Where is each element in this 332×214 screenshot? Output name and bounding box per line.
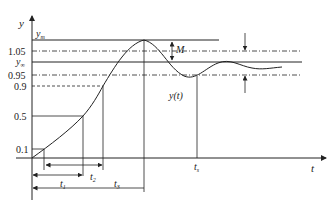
- label-ym: ym: [35, 28, 45, 40]
- step-response-diagram: y t ym 1.05 y∞ 0.95 0.9 0.5 0.1: [0, 0, 332, 214]
- label-t2: t2: [90, 171, 96, 183]
- response-curve: [32, 40, 282, 158]
- label-01: 0.1: [16, 144, 29, 155]
- x-axis-label: t: [311, 162, 315, 174]
- label-t4: ts: [194, 161, 200, 173]
- label-t3: t3: [114, 178, 120, 190]
- label-yinf: y∞: [15, 56, 25, 68]
- y-axis-label: y: [18, 17, 24, 29]
- label-overshoot: M: [175, 44, 185, 55]
- label-05: 0.5: [14, 111, 27, 122]
- label-095: 0.95: [8, 70, 26, 81]
- label-09: 0.9: [14, 81, 27, 92]
- label-curve: y(t): [168, 90, 184, 102]
- label-t1: t1: [60, 178, 66, 190]
